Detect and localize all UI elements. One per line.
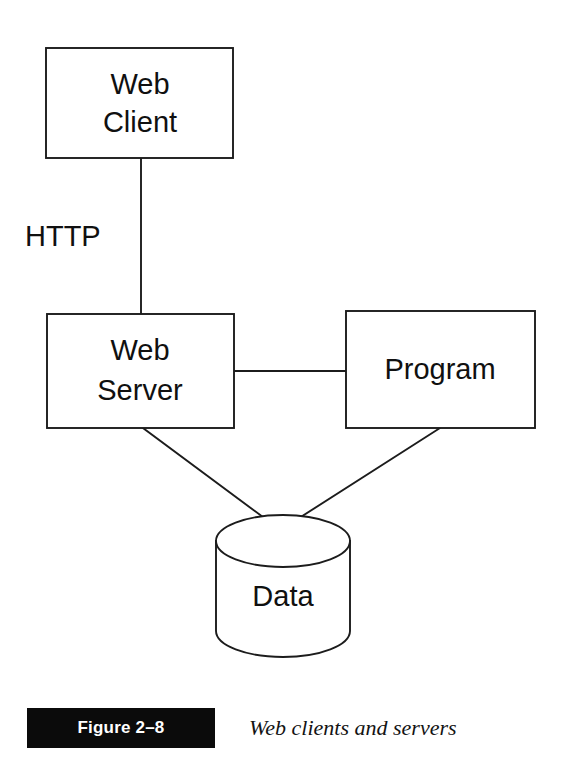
- figure-caption-text: Web clients and servers: [249, 708, 457, 748]
- web-server-box: [47, 314, 234, 428]
- http-edge-label: HTTP: [25, 220, 101, 252]
- data-cylinder-top: [216, 515, 350, 567]
- web-server-label-line1: Web: [110, 334, 169, 366]
- web-server-label-line2: Server: [97, 374, 183, 406]
- node-web-client[interactable]: Web Client: [46, 48, 233, 158]
- web-client-label-line2: Client: [103, 106, 177, 138]
- diagram-canvas: Web Client HTTP Web Server Program Data: [0, 0, 568, 783]
- web-client-box: [46, 48, 233, 158]
- edge-server-to-data: [143, 428, 279, 529]
- program-label: Program: [384, 353, 495, 385]
- figure-number-label: Figure 2–8: [77, 718, 164, 738]
- figure-page: Web Client HTTP Web Server Program Data …: [0, 0, 568, 783]
- node-program[interactable]: Program: [346, 311, 535, 428]
- node-data-store[interactable]: Data: [216, 515, 350, 657]
- figure-caption: Figure 2–8 Web clients and servers: [27, 708, 527, 752]
- data-store-label: Data: [252, 580, 314, 612]
- figure-number-badge: Figure 2–8: [27, 708, 215, 748]
- node-web-server[interactable]: Web Server: [47, 314, 234, 428]
- web-client-label-line1: Web: [110, 68, 169, 100]
- edge-program-to-data: [282, 428, 440, 529]
